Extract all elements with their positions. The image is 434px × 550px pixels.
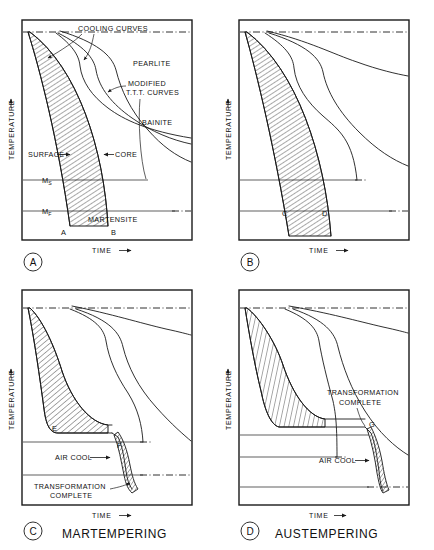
- panel-a-plot: COOLING CURVES PEARLITE MODIFIED T.T.T. …: [0, 0, 217, 275]
- cooling-band-d: [245, 308, 325, 427]
- panel-c: E F AIR COOL TRANSFORMATION COMPLETE TEM…: [0, 275, 217, 550]
- y-axis-label-a: TEMPERATURE: [8, 100, 15, 160]
- air-cool-label-c: AIR COOL: [55, 453, 92, 462]
- point-f-label: F: [117, 441, 122, 450]
- point-a-label: A: [61, 228, 66, 237]
- modified-label: MODIFIED: [128, 79, 166, 88]
- panel-c-letter: C: [29, 526, 36, 537]
- mf-label: MF: [42, 207, 51, 217]
- point-e-label: E: [52, 424, 57, 433]
- ttt-curve-outer-d: [293, 309, 408, 455]
- x-axis-label-c: TIME: [92, 512, 112, 519]
- ttt-curve-top-d: [289, 306, 408, 333]
- point-d-label: D: [322, 209, 327, 218]
- ttt-curves-label: T.T.T. CURVES: [126, 88, 179, 97]
- ttt-curves-leader-2: [139, 99, 146, 179]
- panel-c-plot: E F AIR COOL TRANSFORMATION COMPLETE TEM…: [0, 275, 217, 550]
- point-g-label: G: [369, 420, 375, 429]
- cooling-band-a: [28, 32, 108, 226]
- point-b-label: B: [111, 228, 116, 237]
- panel-d: G TRANSFORMATION COMPLETE AIR COOL TEMPE…: [217, 275, 434, 550]
- martensite-label: MARTENSITE: [88, 215, 138, 224]
- point-c-label: C: [282, 209, 288, 218]
- y-axis-label-b: TEMPERATURE: [225, 100, 232, 160]
- pearlite-label: PEARLITE: [133, 59, 171, 68]
- panel-d-plot: G TRANSFORMATION COMPLETE AIR COOL TEMPE…: [217, 275, 434, 550]
- cooling-band-b: [245, 32, 331, 236]
- x-axis-label-b: TIME: [309, 247, 329, 254]
- cooling-curves-label: COOLING CURVES: [78, 24, 148, 33]
- bainite-label: BAINITE: [142, 118, 172, 127]
- ttt-curve-top-c: [72, 306, 191, 335]
- panel-a-letter: A: [30, 257, 37, 268]
- core-label: CORE: [115, 150, 137, 159]
- x-axis-label-d: TIME: [309, 512, 329, 519]
- complete-label-c: COMPLETE: [50, 491, 92, 500]
- panel-a: COOLING CURVES PEARLITE MODIFIED T.T.T. …: [0, 0, 217, 275]
- transformation-label-d: TRANSFORMATION: [327, 388, 399, 397]
- panel-c-caption: MARTEMPERING: [62, 527, 167, 541]
- transformation-leader-d: [357, 408, 365, 426]
- ttt-diagram-figure: COOLING CURVES PEARLITE MODIFIED T.T.T. …: [0, 0, 434, 550]
- panel-b-letter: B: [247, 257, 254, 268]
- transformation-label-c: TRANSFORMATION: [34, 482, 106, 491]
- panel-b-plot: C D TEMPERATURE TIME B: [217, 0, 434, 275]
- panel-b: C D TEMPERATURE TIME B: [217, 0, 434, 275]
- complete-label-d: COMPLETE: [339, 398, 381, 407]
- x-axis-label-a: TIME: [92, 247, 112, 254]
- ms-label: MS: [42, 176, 52, 186]
- y-axis-label-c: TEMPERATURE: [8, 370, 15, 430]
- panel-d-letter: D: [246, 526, 253, 537]
- air-cool-label-d: AIR COOL: [319, 456, 356, 465]
- cooling-band-c: [28, 308, 108, 433]
- y-axis-label-d: TEMPERATURE: [225, 370, 232, 430]
- panel-d-caption: AUSTEMPERING: [275, 527, 378, 541]
